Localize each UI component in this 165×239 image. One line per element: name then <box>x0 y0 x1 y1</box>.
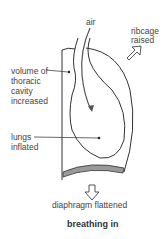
diaphragm-down-arrow-icon <box>85 185 99 200</box>
volume-leader <box>46 70 68 72</box>
label-volume-1: volume of <box>11 66 48 76</box>
lungs-dot <box>98 137 101 140</box>
label-volume-3: cavity <box>11 86 33 96</box>
volume-dot <box>68 71 70 73</box>
label-diaphragm: diaphragm flattened <box>52 200 127 210</box>
diagram-title: breathing in <box>67 219 119 229</box>
lungs-leader <box>34 137 99 138</box>
label-ribcage-2: raised <box>131 35 154 45</box>
label-volume-4: increased <box>11 96 48 106</box>
lung-outline <box>70 38 125 158</box>
label-air: air <box>86 17 95 27</box>
label-lungs-1: lungs <box>11 132 31 142</box>
label-volume-2: thoracic <box>11 76 41 86</box>
ribcage-up-arrow-icon <box>127 46 141 60</box>
thoracic-cavity-outline <box>62 48 133 180</box>
diaphragm <box>63 165 124 177</box>
label-lungs-2: inflated <box>11 142 38 152</box>
air-arrowhead <box>88 105 94 112</box>
